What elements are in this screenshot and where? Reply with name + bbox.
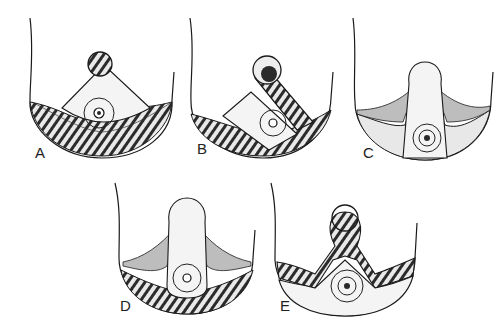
breast-diagram-a [22, 10, 182, 165]
panel-b: B [185, 10, 335, 165]
panel-label-a: A [35, 144, 45, 161]
panel-label-d: D [120, 297, 131, 314]
panel-label-c: C [363, 144, 374, 161]
panel-e: E [265, 178, 425, 322]
panel-a: A [22, 10, 182, 165]
panel-d: D [105, 178, 265, 322]
panel-c: C [345, 10, 494, 165]
breast-diagram-c [345, 10, 494, 165]
panel-label-e: E [280, 297, 290, 314]
breast-diagram-b [185, 10, 335, 165]
panel-label-b: B [197, 140, 207, 157]
